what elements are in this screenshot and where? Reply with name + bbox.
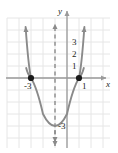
x-tick-label-1: 1	[82, 81, 87, 91]
graph-canvas: x y 3 2 1 -3 -3 1	[0, 0, 118, 153]
parabola-figure: x y 3 2 1 -3 -3 1	[0, 0, 118, 153]
x-axis-label: x	[105, 79, 110, 89]
y-axis-label: y	[57, 6, 62, 16]
y-tick-label-3: 3	[72, 37, 77, 47]
y-tick-label-2: 2	[72, 49, 77, 59]
y-tick-label-1: 1	[72, 61, 77, 71]
x-tick-label-neg3: -3	[24, 81, 32, 91]
y-tick-label-neg3: -3	[58, 121, 66, 131]
